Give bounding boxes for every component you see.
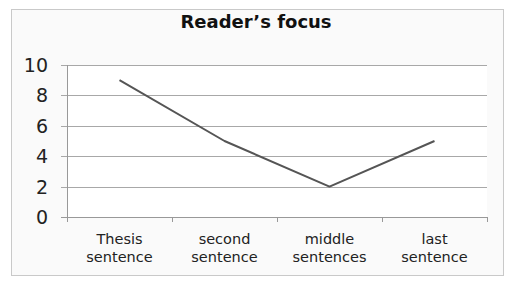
series-line xyxy=(120,80,435,186)
line-plot xyxy=(0,0,512,287)
